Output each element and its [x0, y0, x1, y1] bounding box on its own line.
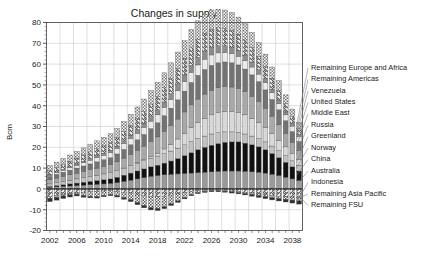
y-tick-label: 70	[32, 39, 41, 48]
x-tick-label: 2006	[68, 236, 86, 245]
x-tick-label: 2022	[176, 236, 194, 245]
y-tick-label: -10	[29, 206, 41, 215]
legend-item-label[interactable]: United States	[311, 97, 356, 106]
legend-item-label[interactable]: Remaining Asia Pacific	[311, 189, 386, 198]
legend-item-label[interactable]: Greenland	[311, 131, 346, 140]
x-tick-label: 2030	[230, 236, 248, 245]
legend-item-label[interactable]: Indonesia	[311, 177, 344, 186]
x-tick-label: 2002	[41, 236, 59, 245]
y-tick-label: -20	[29, 226, 41, 235]
y-tick-label: 20	[32, 143, 41, 152]
y-tick-label: 30	[32, 122, 41, 131]
legend-item-label[interactable]: Middle East	[311, 108, 350, 117]
x-tick-label: 2014	[122, 236, 140, 245]
supply-changes-chart: Changes in supply Bcm 80706050403020100-…	[0, 0, 435, 263]
x-tick-label: 2010	[95, 236, 113, 245]
legend-item-label[interactable]: Remaining Americas	[311, 74, 379, 83]
chart-container: Changes in supply Bcm 80706050403020100-…	[0, 0, 435, 263]
y-axis-label: Bcm	[5, 124, 14, 140]
x-tick-label: 2026	[203, 236, 221, 245]
y-tick-label: 60	[32, 60, 41, 69]
y-tick-label: 10	[32, 164, 41, 173]
x-tick-label: 2018	[149, 236, 167, 245]
legend-item-label[interactable]: Norway	[311, 143, 336, 152]
x-tick-label: 2038	[283, 236, 301, 245]
legend-item-label[interactable]: Australia	[311, 166, 341, 175]
y-tick-label: 0	[37, 185, 42, 194]
x-tick-label: 2034	[257, 236, 275, 245]
y-tick-label: 40	[32, 102, 41, 111]
legend-item-label[interactable]: Remaining FSU	[311, 200, 363, 209]
legend-item-label[interactable]: Remaining Europe and Africa	[311, 63, 408, 72]
legend-item-label[interactable]: Russia	[311, 120, 334, 129]
legend-item-label[interactable]: Venezuela	[311, 86, 346, 95]
legend-item-label[interactable]: China	[311, 154, 331, 163]
y-tick-label: 80	[32, 18, 41, 27]
y-tick-label: 50	[32, 81, 41, 90]
